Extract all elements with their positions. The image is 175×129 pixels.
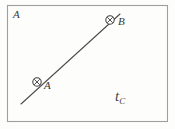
boundary-rectangle [8,6,168,122]
point-a-marker [33,78,41,86]
t-subscript: C [119,96,125,106]
diagram-canvas: A A B tC [0,0,175,129]
line-through-a-b [21,14,120,104]
t-subscript-c-annotation: tC [115,89,125,106]
point-b-label: B [118,16,125,27]
diagram-vector-layer [0,0,175,129]
point-b-marker [106,16,114,24]
point-a-label: A [44,80,51,91]
region-label: A [13,9,20,20]
